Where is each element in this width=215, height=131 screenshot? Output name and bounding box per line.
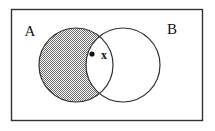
set-label-b: B [167,21,177,37]
element-point-marker [89,51,94,56]
venn-diagram-canvas: A B x [0,0,215,131]
venn-diagram-figure: A B x [0,0,215,131]
shaded-region-a-only [0,0,215,131]
element-point-label: x [101,48,107,62]
set-label-a: A [25,23,36,39]
